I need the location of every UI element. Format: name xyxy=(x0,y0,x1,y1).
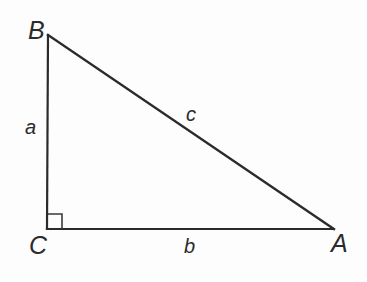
vertex-label-c: C xyxy=(29,233,47,258)
side-label-c: c xyxy=(186,104,196,124)
right-triangle-figure: B C A a b c xyxy=(0,0,367,282)
right-angle-marker-icon xyxy=(48,214,62,229)
side-label-a: a xyxy=(25,117,36,137)
vertex-label-a: A xyxy=(331,231,348,256)
vertex-label-b: B xyxy=(28,18,45,43)
side-label-b: b xyxy=(184,236,195,256)
side-c-line xyxy=(48,35,334,229)
side-a-line xyxy=(47,35,48,229)
